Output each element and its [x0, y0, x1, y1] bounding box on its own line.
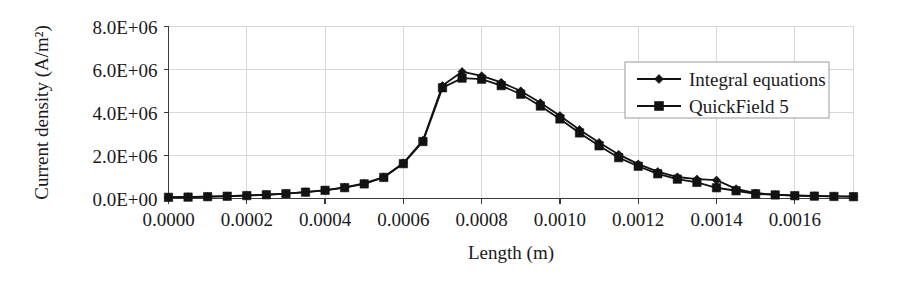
x-tick-label: 0.0010 [534, 209, 586, 230]
y-axis-tick-labels: 0.0E+002.0E+064.0E+066.0E+068.0E+06 [92, 17, 157, 210]
data-point-marker [771, 191, 779, 199]
x-tick-label: 0.0000 [142, 209, 194, 230]
x-axis-ticks [169, 199, 795, 204]
legend-entry-label: Integral equations [689, 69, 826, 90]
data-point-marker [282, 189, 290, 197]
y-axis-title: Current density (A/m²) [31, 25, 53, 200]
data-point-marker [791, 192, 799, 200]
chart-legend[interactable]: Integral equationsQuickField 5 [625, 62, 829, 118]
data-point-marker [849, 192, 857, 200]
data-point-marker [360, 180, 368, 188]
data-point-marker [732, 187, 740, 195]
data-point-marker [340, 183, 348, 191]
chart-figure: 0.0E+002.0E+064.0E+066.0E+068.0E+06 0.00… [0, 0, 903, 298]
data-point-marker [575, 129, 583, 137]
x-axis-tick-labels: 0.00000.00020.00040.00060.00080.00100.00… [142, 209, 821, 230]
data-point-marker [458, 74, 466, 82]
data-point-marker [693, 178, 701, 186]
x-tick-label: 0.0002 [221, 209, 273, 230]
data-point-marker [595, 142, 603, 150]
data-point-marker [184, 193, 192, 201]
legend-entry-label: QuickField 5 [689, 96, 789, 117]
data-point-marker [321, 186, 329, 194]
chart-canvas: 0.0E+002.0E+064.0E+066.0E+068.0E+06 0.00… [0, 0, 903, 298]
data-point-marker [712, 176, 720, 184]
data-point-marker [654, 170, 662, 178]
y-tick-label: 4.0E+06 [92, 103, 157, 124]
data-point-marker [751, 190, 759, 198]
data-point-marker [673, 175, 681, 183]
data-point-marker [223, 192, 231, 200]
data-point-marker [556, 115, 564, 123]
x-tick-label: 0.0012 [612, 209, 664, 230]
y-axis-ticks [164, 27, 169, 199]
data-point-marker [380, 173, 388, 181]
data-point-marker [634, 162, 642, 170]
x-tick-label: 0.0004 [299, 209, 352, 230]
x-axis-title: Length (m) [468, 242, 554, 264]
data-point-marker [419, 137, 427, 145]
y-tick-label: 6.0E+06 [92, 60, 157, 81]
x-tick-label: 0.0006 [377, 209, 429, 230]
y-tick-label: 2.0E+06 [92, 146, 157, 167]
data-point-marker [243, 191, 251, 199]
data-point-marker [517, 90, 525, 98]
data-point-marker [301, 188, 309, 196]
data-point-marker [203, 192, 211, 200]
data-point-marker [438, 84, 446, 92]
x-tick-label: 0.0016 [769, 209, 821, 230]
data-point-marker [399, 159, 407, 167]
data-point-marker [536, 102, 544, 110]
data-point-marker [262, 191, 270, 199]
data-point-marker [497, 81, 505, 89]
data-point-marker [477, 75, 485, 83]
y-tick-label: 8.0E+06 [92, 17, 157, 38]
data-point-marker [164, 193, 172, 201]
x-tick-label: 0.0014 [690, 209, 743, 230]
legend-marker-icon [655, 102, 664, 111]
data-point-marker [830, 192, 838, 200]
x-tick-label: 0.0008 [456, 209, 508, 230]
data-point-marker [810, 192, 818, 200]
y-tick-label: 0.0E+00 [92, 189, 157, 210]
data-point-marker [712, 184, 720, 192]
data-point-marker [614, 153, 622, 161]
